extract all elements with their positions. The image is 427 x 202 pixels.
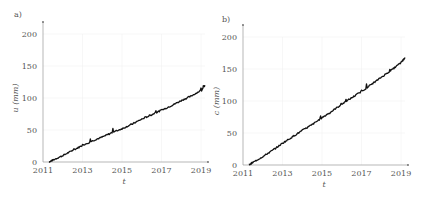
chart-canvas: 05010015020020112013201520172019tu (mm)a…: [0, 0, 427, 202]
series-line-c: [249, 58, 405, 165]
x-tick-label: 2017: [351, 169, 371, 178]
x-axis-arrow-icon: [207, 161, 209, 163]
y-axis-label: c (mm): [212, 87, 221, 115]
y-tick-label: 100: [22, 94, 37, 103]
x-tick-label: 2017: [151, 166, 171, 175]
x-axis-arrow-icon: [407, 164, 409, 166]
y-tick-label: 150: [222, 65, 237, 74]
y-tick-label: 50: [27, 126, 37, 135]
y-axis-label: u (mm): [11, 83, 20, 112]
x-tick-label: 2011: [233, 169, 253, 178]
y-tick-label: 200: [222, 33, 237, 42]
y-tick-label: 200: [22, 30, 37, 39]
y-tick-label: 50: [227, 129, 237, 138]
x-tick-label: 2015: [112, 166, 132, 175]
y-tick-label: 150: [22, 62, 37, 71]
x-tick-label: 2019: [391, 169, 411, 178]
x-axis-label: t: [122, 177, 126, 186]
x-tick-label: 2015: [312, 169, 332, 178]
x-tick-label: 2019: [191, 166, 211, 175]
x-tick-label: 2013: [72, 166, 92, 175]
x-tick-label: 2011: [33, 166, 53, 175]
series-line-u: [49, 85, 205, 162]
panel-label: b): [222, 15, 230, 24]
y-tick-label: 100: [222, 97, 237, 106]
y-axis-arrow-icon: [242, 24, 244, 26]
panel-label: a): [14, 10, 22, 19]
y-axis-arrow-icon: [42, 21, 44, 23]
x-tick-label: 2013: [272, 169, 292, 178]
x-axis-label: t: [322, 180, 326, 189]
